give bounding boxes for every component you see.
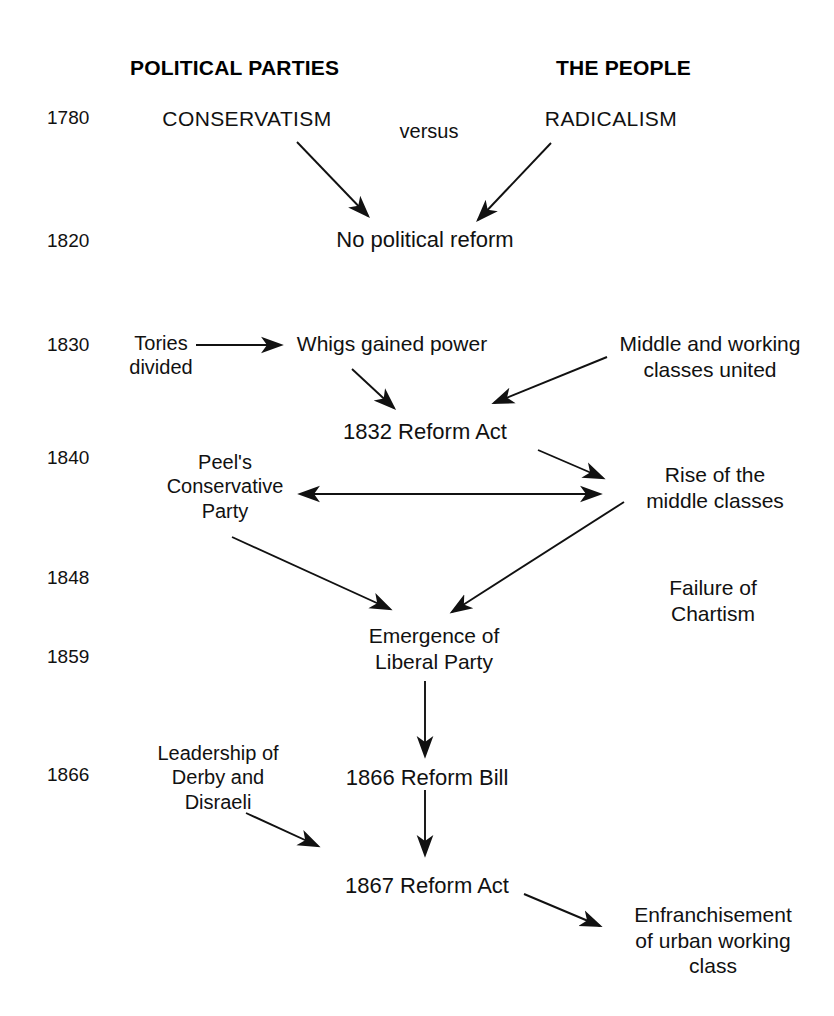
node-emergence-of-liberal-party: Emergence of Liberal Party [324,623,544,674]
year-label-1848: 1848 [47,567,89,589]
arrow-conservatism-to-no-reform [297,142,368,216]
year-label-1820: 1820 [47,230,89,252]
arrow-classes-to-1832 [494,357,607,403]
column-heading-the-people: THE PEOPLE [556,56,691,80]
node-no-political-reform: No political reform [285,227,565,254]
year-label-1840: 1840 [47,447,89,469]
node-rise-of-the-middle-classes: Rise of the middle classes [615,462,815,513]
node-conservatism: CONSERVATISM [117,106,377,132]
year-label-1780: 1780 [47,107,89,129]
arrow-whigs-to-1832 [352,369,394,408]
node-leadership-of-derby-and-disraeli: Leadership of Derby and Disraeli [118,741,318,814]
arrow-rise-to-emergence [452,502,624,612]
arrow-peel-to-emergence [232,537,390,609]
node-middle-and-working-classes-united: Middle and working classes united [600,331,820,382]
year-label-1866: 1866 [47,764,89,786]
node-versus: versus [369,119,489,143]
node-1867-reform-act: 1867 Reform Act [307,873,547,900]
node-tories-divided: Tories divided [81,331,241,380]
node-enfranchisement-of-urban-working-class: Enfranchisement of urban working class [613,902,813,979]
node-1832-reform-act: 1832 Reform Act [305,419,545,446]
column-heading-political-parties: POLITICAL PARTIES [130,56,339,80]
diagram-canvas: POLITICAL PARTIES THE PEOPLE 1780 1820 1… [0,0,834,1016]
node-radicalism: RADICALISM [491,106,731,132]
arrow-disraeli-to-1867 [246,813,318,846]
node-whigs-gained-power: Whigs gained power [262,331,522,357]
year-label-1859: 1859 [47,646,89,668]
arrow-radicalism-to-no-reform [478,143,551,220]
node-failure-of-chartism: Failure of Chartism [623,575,803,626]
node-1866-reform-bill: 1866 Reform Bill [307,765,547,792]
arrow-1832-to-rise [538,450,603,478]
node-peels-conservative-party: Peel's Conservative Party [125,450,325,523]
